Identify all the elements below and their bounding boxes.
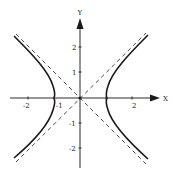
hyperbola-chart: X Y -2 -1 2 2 1 -1 -2	[0, 0, 176, 174]
hyperbola-left-branch	[14, 36, 55, 158]
x-axis-arrow-icon	[150, 95, 160, 102]
asymptote-y-neg-x	[16, 34, 146, 164]
y-tick-label: -2	[69, 145, 76, 153]
y-tick-label: 1	[72, 69, 76, 77]
y-axis-label: Y	[77, 9, 83, 17]
y-tick-label: 2	[72, 44, 76, 52]
y-axis-arrow-icon	[77, 18, 84, 29]
x-tick-label: -1	[56, 102, 63, 110]
chart-canvas: X Y -2 -1 2 2 1 -1 -2	[0, 0, 176, 174]
y-tick-label: -1	[69, 120, 76, 128]
x-axis-label: X	[163, 95, 168, 103]
x-tick-label: 2	[132, 102, 136, 110]
hyperbola-right-branch	[106, 35, 148, 159]
x-tick-label: -2	[23, 102, 30, 110]
